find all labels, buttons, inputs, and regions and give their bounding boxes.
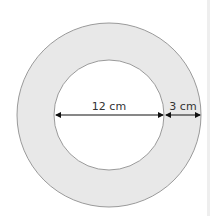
ring-width-label: 3 cm [169, 100, 196, 113]
inner-diameter-label: 12 cm [92, 100, 126, 113]
annulus-diagram: 12 cm 3 cm [0, 0, 210, 216]
right-edge-strip [207, 0, 210, 216]
